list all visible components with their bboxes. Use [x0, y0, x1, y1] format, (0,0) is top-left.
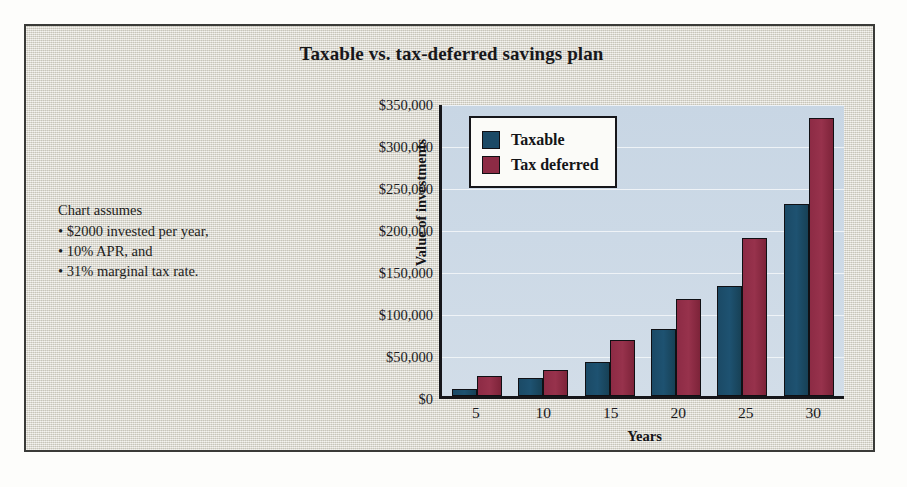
- x-axis-title: Years: [442, 428, 847, 445]
- legend-label-taxable: Taxable: [511, 131, 565, 149]
- legend-entry-taxable: Taxable: [482, 127, 599, 152]
- x-axis-tick-15: 15: [581, 404, 641, 422]
- y-axis-tick-0: $0: [419, 391, 434, 408]
- y-axis-tick-labels: $0$50,000$100,000$150,000$200,000$250,00…: [343, 105, 433, 399]
- legend-entry-tax-deferred: Tax deferred: [482, 152, 599, 177]
- bar-deferred-year-20: [676, 299, 701, 396]
- bar-deferred-year-15: [610, 340, 635, 396]
- bar-group-year-15: [585, 340, 635, 396]
- assumptions-bullet-2: • 10% APR, and: [58, 241, 308, 261]
- bar-group-year-10: [518, 370, 568, 396]
- x-axis-tick-25: 25: [716, 404, 776, 422]
- x-axis-tick-5: 5: [446, 404, 506, 422]
- bar-group-year-25: [717, 238, 767, 396]
- y-axis-tick-100000: $100,000: [379, 307, 433, 324]
- bar-taxable-year-15: [585, 362, 610, 396]
- plot-wrap: Taxable Tax deferred: [439, 105, 844, 399]
- bar-deferred-year-5: [477, 376, 502, 396]
- chart-title: Taxable vs. tax-deferred savings plan: [26, 43, 877, 65]
- bar-group-year-20: [651, 299, 701, 396]
- bar-taxable-year-10: [518, 378, 543, 396]
- assumptions-bullet-3: • 31% marginal tax rate.: [58, 261, 308, 281]
- bar-group-year-5: [452, 376, 502, 396]
- y-axis-tick-300000: $300,000: [379, 139, 433, 156]
- chart-legend: Taxable Tax deferred: [469, 116, 617, 188]
- bar-group-year-30: [784, 118, 834, 396]
- legend-swatch-icon-taxable: [482, 131, 500, 149]
- x-axis-tick-10: 10: [513, 404, 573, 422]
- bar-deferred-year-30: [809, 118, 834, 396]
- legend-label-tax-deferred: Tax deferred: [511, 156, 599, 174]
- bar-deferred-year-25: [742, 238, 767, 396]
- bar-taxable-year-20: [651, 329, 676, 396]
- legend-swatch-icon-tax-deferred: [482, 156, 500, 174]
- x-axis-tick-30: 30: [783, 404, 843, 422]
- figure-frame: Taxable vs. tax-deferred savings plan Ch…: [24, 24, 875, 452]
- bar-deferred-year-10: [543, 370, 568, 396]
- y-axis-tick-50000: $50,000: [386, 349, 433, 366]
- y-axis-tick-250000: $250,000: [379, 181, 433, 198]
- bar-taxable-year-5: [452, 389, 477, 396]
- bar-taxable-year-30: [784, 204, 809, 396]
- page-root: Taxable vs. tax-deferred savings plan Ch…: [0, 0, 907, 487]
- y-axis-tick-350000: $350,000: [379, 97, 433, 114]
- assumptions-heading: Chart assumes: [58, 200, 308, 220]
- y-axis-tick-150000: $150,000: [379, 265, 433, 282]
- y-axis-tick-200000: $200,000: [379, 223, 433, 240]
- assumptions-note: Chart assumes • $2000 invested per year,…: [58, 200, 308, 281]
- assumptions-bullet-1: • $2000 invested per year,: [58, 221, 308, 241]
- x-axis-tick-20: 20: [648, 404, 708, 422]
- x-axis-tick-labels: 51015202530: [442, 404, 847, 422]
- bar-taxable-year-25: [717, 286, 742, 396]
